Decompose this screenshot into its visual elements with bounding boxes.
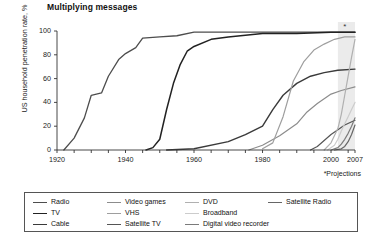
legend-item[interactable]: Satellite Radio: [268, 198, 331, 206]
legend-label: Video games: [125, 198, 166, 206]
y-tick-label: 20: [29, 121, 51, 130]
legend-item[interactable]: DVD: [185, 198, 218, 206]
legend-swatch: [268, 202, 282, 203]
x-tick-label: 1960: [181, 155, 207, 164]
chart-legend: RadioTVCableVideo gamesVHSSatellite TVDV…: [24, 192, 358, 232]
legend-item[interactable]: Satellite TV: [107, 220, 161, 228]
legend-label: DVD: [203, 198, 218, 206]
legend-item[interactable]: Cable: [33, 220, 69, 228]
chart-figure: Multiplying messages US household penetr…: [0, 0, 367, 248]
legend-label: Broadband: [203, 209, 237, 217]
x-tick-label: 1980: [250, 155, 276, 164]
legend-label: Satellite Radio: [286, 198, 331, 206]
legend-swatch: [107, 224, 121, 225]
legend-item[interactable]: TV: [33, 209, 60, 217]
x-tick-label: 2000: [318, 155, 344, 164]
x-tick-label: 1920: [44, 155, 70, 164]
y-tick-label: 80: [29, 50, 51, 59]
legend-swatch: [33, 224, 47, 225]
y-tick-label: 100: [29, 26, 51, 35]
legend-label: TV: [51, 209, 60, 217]
legend-label: Radio: [51, 198, 69, 206]
legend-swatch: [107, 202, 121, 203]
legend-item[interactable]: VHS: [107, 209, 139, 217]
x-tick-label: 1940: [113, 155, 139, 164]
y-tick-label: 0: [29, 145, 51, 154]
y-tick-label: 60: [29, 74, 51, 83]
legend-label: Digital video recorder: [203, 220, 269, 228]
legend-swatch: [185, 213, 199, 214]
legend-item[interactable]: Radio: [33, 198, 69, 206]
legend-swatch: [107, 213, 121, 214]
y-tick-label: 40: [29, 97, 51, 106]
legend-label: VHS: [125, 209, 139, 217]
legend-item[interactable]: Video games: [107, 198, 166, 206]
projection-asterisk: *: [343, 22, 346, 31]
legend-swatch: [33, 213, 47, 214]
series-line-radio: [64, 32, 355, 150]
legend-label: Satellite TV: [125, 220, 161, 228]
legend-item[interactable]: Broadband: [185, 209, 237, 217]
x-tick-label: 2007: [342, 155, 367, 164]
legend-label: Cable: [51, 220, 69, 228]
legend-swatch: [33, 202, 47, 203]
legend-swatch: [185, 202, 199, 203]
legend-swatch: [185, 224, 199, 225]
legend-item[interactable]: Digital video recorder: [185, 220, 269, 228]
